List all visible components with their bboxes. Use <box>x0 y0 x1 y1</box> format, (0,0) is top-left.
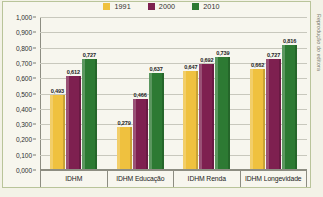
bar-shadow <box>279 59 281 170</box>
bar-highlight <box>117 127 120 170</box>
legend-label: 1991 <box>114 3 130 10</box>
y-tick-label: 0,400 <box>16 105 32 112</box>
y-tick-mark <box>33 170 36 171</box>
bar-shadow <box>63 95 65 170</box>
y-tick-label: 0,300 <box>16 121 32 128</box>
bar-2010: 0,637 <box>149 73 164 170</box>
bar-highlight <box>282 45 285 170</box>
bar-highlight <box>199 64 202 170</box>
bar-highlight <box>250 69 253 170</box>
plot-area: 0,4930,6120,7270,2790,4660,6370,6470,692… <box>40 17 307 170</box>
y-tick-mark <box>33 32 36 33</box>
bar-shadow <box>196 71 198 170</box>
bar-shadow <box>295 45 297 170</box>
legend-label: 2000 <box>159 3 175 10</box>
y-tick-mark <box>33 17 36 18</box>
bar-shadow <box>95 59 97 170</box>
bar-slot: 0,612 <box>66 17 81 170</box>
bar-slot: 0,692 <box>199 17 214 170</box>
bar-value-label: 0,662 <box>251 62 264 68</box>
x-axis-cell: IDHM Renda <box>173 170 240 187</box>
y-tick-mark <box>33 78 36 79</box>
bar-value-label: 0,816 <box>283 38 296 44</box>
bar-highlight <box>183 71 186 170</box>
bar-slot: 0,662 <box>250 17 265 170</box>
bar-groups: 0,4930,6120,7270,2790,4660,6370,6470,692… <box>40 17 307 170</box>
bar-value-label: 0,466 <box>134 92 147 98</box>
y-tick-label: 0,700 <box>16 59 32 66</box>
bar-slot: 0,727 <box>266 17 281 170</box>
bar-slot: 0,727 <box>82 17 97 170</box>
legend-item-2010: 2010 <box>192 3 219 10</box>
bar-group: 0,4930,6120,727 <box>40 17 107 170</box>
bar-value-label: 0,727 <box>83 52 96 58</box>
y-tick-label: 1,000 <box>16 14 32 21</box>
y-tick-label: 0,100 <box>16 151 32 158</box>
x-axis-cell: IDHM Educação <box>107 170 174 187</box>
bar-highlight <box>66 76 69 170</box>
bar-value-label: 0,727 <box>267 52 280 58</box>
y-tick-mark <box>33 139 36 140</box>
bar-group: 0,2790,4660,637 <box>107 17 174 170</box>
chart-legend: 199120002010 <box>0 3 323 10</box>
legend-swatch-icon <box>148 3 155 10</box>
bar-highlight <box>215 57 218 170</box>
x-axis-label: IDHM Educação <box>116 175 164 182</box>
bar-highlight <box>266 59 269 170</box>
y-tick-mark <box>33 124 36 125</box>
y-tick-label: 0,000 <box>16 167 32 174</box>
bar-shadow <box>162 73 164 170</box>
x-axis-cell: IDHM Longevidade <box>240 170 308 187</box>
y-tick-label: 0,600 <box>16 75 32 82</box>
bar-shadow <box>146 99 148 170</box>
chart-figure: 199120002010 0,0000,1000,2000,3000,4000,… <box>0 0 323 197</box>
bar-2000: 0,612 <box>66 76 81 170</box>
y-tick-mark <box>33 93 36 94</box>
bar-2000: 0,727 <box>266 59 281 170</box>
x-axis-label: IDHM Longevidade <box>245 175 302 182</box>
bar-shadow <box>228 57 230 170</box>
y-tick-label: 0,500 <box>16 90 32 97</box>
bar-shadow <box>263 69 265 170</box>
y-tick-mark <box>33 108 36 109</box>
y-tick-mark <box>33 62 36 63</box>
bar-slot: 0,493 <box>50 17 65 170</box>
bar-value-label: 0,493 <box>51 88 64 94</box>
bar-value-label: 0,692 <box>200 57 213 63</box>
legend-swatch-icon <box>103 3 110 10</box>
bar-slot: 0,739 <box>215 17 230 170</box>
y-tick-label: 0,800 <box>16 44 32 51</box>
bar-group: 0,6470,6920,739 <box>174 17 241 170</box>
bar-slot: 0,279 <box>117 17 132 170</box>
bar-group: 0,6620,7270,816 <box>240 17 307 170</box>
bar-slot: 0,647 <box>183 17 198 170</box>
bar-1991: 0,662 <box>250 69 265 170</box>
bar-2010: 0,739 <box>215 57 230 170</box>
y-tick-label: 0,900 <box>16 29 32 36</box>
bar-slot: 0,637 <box>149 17 164 170</box>
bar-1991: 0,493 <box>50 95 65 170</box>
bar-value-label: 0,739 <box>216 50 229 56</box>
y-tick-label: 0,200 <box>16 136 32 143</box>
legend-swatch-icon <box>192 3 199 10</box>
y-tick-mark <box>33 47 36 48</box>
x-axis-label: IDHM Renda <box>188 175 226 182</box>
credit-text: Reprodução do editora <box>316 14 322 71</box>
bar-value-label: 0,612 <box>67 69 80 75</box>
bar-value-label: 0,637 <box>150 66 163 72</box>
bar-shadow <box>79 76 81 170</box>
legend-label: 2010 <box>203 3 219 10</box>
bar-slot: 0,816 <box>282 17 297 170</box>
bar-highlight <box>50 95 53 170</box>
bar-value-label: 0,647 <box>184 64 197 70</box>
x-axis-label: IDHM <box>65 175 82 182</box>
y-tick-mark <box>33 154 36 155</box>
bar-2010: 0,727 <box>82 59 97 170</box>
bar-highlight <box>149 73 152 170</box>
bar-2000: 0,692 <box>199 64 214 170</box>
bar-shadow <box>130 127 132 170</box>
bar-highlight <box>133 99 136 170</box>
bar-value-label: 0,279 <box>118 120 131 126</box>
legend-item-2000: 2000 <box>148 3 175 10</box>
bar-highlight <box>82 59 85 170</box>
